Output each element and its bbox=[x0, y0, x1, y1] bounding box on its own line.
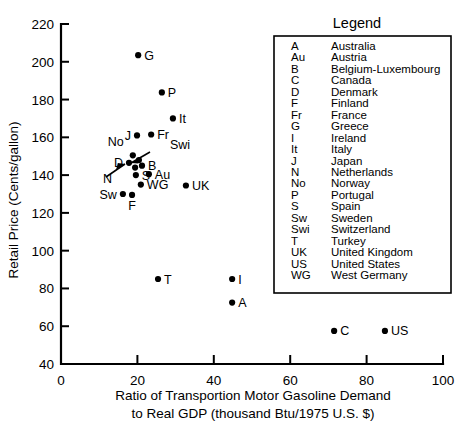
legend-entry-name-sw: Sweden bbox=[331, 212, 373, 224]
x-tick-label: 40 bbox=[206, 373, 221, 388]
x-tick-label: 80 bbox=[359, 373, 374, 388]
legend-entry-code-g: G bbox=[291, 120, 300, 132]
data-point-i: I bbox=[229, 273, 242, 287]
point-label-g: G bbox=[144, 49, 154, 63]
legend-entry-name-p: Portugal bbox=[331, 189, 374, 201]
y-tick-label: 180 bbox=[31, 93, 54, 108]
x-axis-title-line1: Ratio of Transportion Motor Gasoline Dem… bbox=[115, 388, 390, 403]
point-label-no: No bbox=[108, 135, 124, 149]
legend-entry-name-au: Austria bbox=[331, 51, 367, 63]
legend-entry-code-p: P bbox=[291, 189, 299, 201]
data-point-no: No bbox=[108, 135, 136, 158]
data-point-fr: Fr bbox=[148, 128, 169, 142]
legend-entry-code-t: T bbox=[291, 235, 298, 247]
legend-entry-name-it: Italy bbox=[331, 143, 352, 155]
legend-entry-code-us: US bbox=[291, 258, 307, 270]
y-tick-label: 80 bbox=[39, 281, 54, 296]
y-tick-label: 160 bbox=[31, 130, 54, 145]
scatter-chart-figure: 406080100120140160180200220 020406080100… bbox=[0, 0, 467, 427]
legend-title: Legend bbox=[333, 15, 381, 31]
legend-entry-name-t: Turkey bbox=[331, 235, 366, 247]
data-point-c: C bbox=[331, 324, 349, 338]
legend-entry-name-j: Japan bbox=[331, 155, 362, 167]
y-tick-label: 40 bbox=[39, 357, 54, 372]
legend-entry-code-swi: Swi bbox=[291, 223, 310, 235]
legend-entry-name-uk: United Kingdom bbox=[331, 246, 413, 258]
point-marker-uk bbox=[183, 182, 189, 188]
legend-entry-code-sw: Sw bbox=[291, 212, 308, 224]
point-marker-t bbox=[155, 276, 161, 282]
legend-entry-d: DDenmark bbox=[291, 86, 378, 98]
legend-entry-code-f: F bbox=[291, 97, 298, 109]
point-marker-no bbox=[130, 152, 136, 158]
legend-entry-fr: FrFrance bbox=[291, 109, 367, 121]
legend-entry-code-no: No bbox=[291, 177, 306, 189]
legend-entry-s: SSpain bbox=[291, 200, 360, 212]
y-tick-label: 100 bbox=[31, 244, 54, 259]
point-marker-fr bbox=[148, 131, 154, 137]
data-point-it: It bbox=[170, 112, 187, 126]
legend-entry-name-a: Australia bbox=[331, 40, 376, 52]
data-point-j: J bbox=[125, 129, 140, 143]
legend-entry-code-n: N bbox=[291, 166, 299, 178]
point-label-i: I bbox=[238, 273, 241, 287]
point-label-swi: Swi bbox=[170, 138, 190, 152]
legend-entry-no: NoNorway bbox=[291, 177, 370, 189]
data-point-t: T bbox=[155, 273, 172, 287]
point-label-a: A bbox=[238, 296, 247, 310]
legend-entry-uk: UKUnited Kingdom bbox=[291, 246, 413, 258]
point-marker-p bbox=[159, 89, 165, 95]
data-point-us: US bbox=[382, 324, 408, 338]
point-label-sw: Sw bbox=[100, 188, 118, 202]
y-axis-ticks: 406080100120140160180200220 bbox=[31, 17, 69, 372]
point-label-us: US bbox=[391, 324, 408, 338]
legend-entry-code-c: C bbox=[291, 74, 299, 86]
y-axis-title: Retail Price (Cents/gallon) bbox=[6, 122, 21, 279]
legend-entry-name-wg: West Germany bbox=[331, 269, 408, 281]
point-marker-s bbox=[133, 172, 139, 178]
point-label-c: C bbox=[340, 324, 349, 338]
legend-entry-code-d: D bbox=[291, 86, 299, 98]
y-tick-label: 60 bbox=[39, 319, 54, 334]
legend-entry-name-d: Denmark bbox=[331, 86, 378, 98]
plot-svg: 406080100120140160180200220 020406080100… bbox=[0, 0, 467, 427]
legend-entry-f: FFinland bbox=[291, 97, 369, 109]
legend-entry-code-au: Au bbox=[291, 51, 305, 63]
legend-entry-name-b: Belgium-Luxembourg bbox=[331, 63, 440, 75]
data-point-uk: UK bbox=[183, 179, 210, 193]
legend-entry-name-i: Ireland bbox=[331, 132, 366, 144]
data-point-g: G bbox=[135, 49, 154, 63]
point-label-uk: UK bbox=[192, 179, 210, 193]
legend-entry-code-it: It bbox=[291, 143, 298, 155]
legend-entry-code-j: J bbox=[291, 155, 297, 167]
y-tick-label: 220 bbox=[31, 17, 54, 32]
point-label-it: It bbox=[179, 112, 186, 126]
legend-entry-it: ItItaly bbox=[291, 143, 352, 155]
point-marker-au bbox=[146, 171, 152, 177]
data-point-p: P bbox=[159, 86, 176, 100]
legend-entry-code-fr: Fr bbox=[291, 109, 302, 121]
legend-entry-us: USUnited States bbox=[291, 258, 400, 270]
legend-entry-code-b: B bbox=[291, 63, 299, 75]
legend-entry-b: BBelgium-Luxembourg bbox=[291, 63, 440, 75]
point-marker-j bbox=[134, 132, 140, 138]
point-marker-a bbox=[229, 300, 235, 306]
x-tick-label: 0 bbox=[57, 373, 65, 388]
point-marker-sw bbox=[120, 191, 126, 197]
point-marker-it bbox=[170, 115, 176, 121]
point-label-fr: Fr bbox=[157, 128, 169, 142]
legend-entry-t: TTurkey bbox=[291, 235, 366, 247]
legend-entry-n: NNetherlands bbox=[291, 166, 393, 178]
legend-entry-g: GGreece bbox=[291, 120, 369, 132]
point-marker-f bbox=[129, 192, 135, 198]
legend-entry-name-c: Canada bbox=[331, 74, 372, 86]
legend-entry-name-s: Spain bbox=[331, 200, 360, 212]
point-label-wg: WG bbox=[147, 178, 169, 192]
legend-entry-name-no: Norway bbox=[331, 177, 370, 189]
axis-frame bbox=[61, 24, 443, 364]
legend-entry-code-a: A bbox=[291, 40, 299, 52]
point-marker-g bbox=[135, 52, 141, 58]
legend-entry-code-wg: WG bbox=[291, 269, 311, 281]
point-label-f: F bbox=[128, 199, 136, 213]
legend-entry-swi: SwiSwitzerland bbox=[291, 223, 390, 235]
